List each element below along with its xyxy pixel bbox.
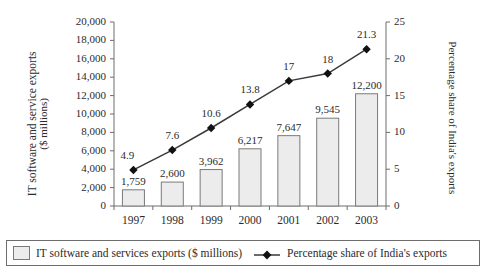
line-marker: [246, 100, 254, 108]
right-axis-tick-label: 10: [394, 125, 422, 137]
left-axis-tick-label: 0: [60, 199, 106, 211]
line-marker: [285, 77, 293, 85]
right-axis-tick-label: 5: [394, 162, 422, 174]
right-axis-tick-label: 15: [394, 89, 422, 101]
legend-label-line: Percentage share of India's exports: [287, 247, 447, 259]
bar: [278, 136, 300, 206]
left-axis-tick-label: 14,000: [60, 70, 106, 82]
line-value-label: 10.6: [194, 107, 228, 119]
bar-value-label: 12,200: [344, 79, 390, 91]
x-axis-tick-label: 1997: [113, 214, 153, 226]
right-axis-tick-label: 25: [394, 15, 422, 27]
left-axis-tick-label: 12,000: [60, 89, 106, 101]
line-value-label: 13.8: [233, 83, 267, 95]
bar: [200, 170, 222, 206]
left-axis-tick-label: 16,000: [60, 52, 106, 64]
left-axis-tick-label: 18,000: [60, 33, 106, 45]
x-axis-tick-label: 1999: [191, 214, 231, 226]
left-axis-tick-label: 10,000: [60, 107, 106, 119]
line-marker: [129, 166, 137, 174]
legend-line-diamond-icon: [254, 247, 280, 259]
line-marker: [324, 69, 332, 77]
x-axis-tick-label: 2001: [269, 214, 309, 226]
left-axis-tick-label: 2,000: [60, 181, 106, 193]
bar: [356, 94, 378, 206]
bar: [122, 190, 144, 206]
line-value-label: 17: [272, 60, 306, 72]
left-axis-tick-label: 4,000: [60, 162, 106, 174]
right-axis-tick-label: 0: [394, 199, 422, 211]
legend-swatch-icon: [13, 246, 30, 260]
line-marker: [168, 146, 176, 154]
x-axis-ticks: [114, 206, 386, 210]
bar: [317, 118, 339, 206]
line-value-label: 4.9: [110, 149, 144, 161]
left-axis-tick-label: 20,000: [60, 15, 106, 27]
x-axis-tick-label: 1998: [152, 214, 192, 226]
chart-legend: IT software and services exports ($ mill…: [6, 240, 480, 266]
line-value-label: 7.6: [155, 129, 189, 141]
bar-value-label: 3,962: [188, 155, 234, 167]
line-value-label: 21.3: [350, 28, 384, 40]
bar-value-label: 9,545: [305, 103, 351, 115]
bar: [161, 182, 183, 206]
x-axis-tick-label: 2002: [308, 214, 348, 226]
left-axis-tick-label: 8,000: [60, 125, 106, 137]
bar-value-label: 7,647: [266, 121, 312, 133]
left-axis-title: IT software and service exports ($ milli…: [26, 29, 50, 219]
right-axis-tick-label: 20: [394, 52, 422, 64]
chart-figure: IT software and service exports ($ milli…: [0, 0, 488, 274]
line-value-label: 18: [311, 53, 345, 65]
bar-value-label: 6,217: [227, 134, 273, 146]
legend-label-bar: IT software and services exports ($ mill…: [36, 247, 242, 259]
bar-value-label: 2,600: [149, 167, 195, 179]
right-axis-ticks: [386, 22, 390, 206]
x-axis-tick-label: 2003: [347, 214, 387, 226]
line-marker: [207, 124, 215, 132]
right-axis-title: Percentage share of India's exports: [446, 18, 458, 218]
left-axis-title-line2: ($ millions): [38, 29, 50, 219]
line-marker: [362, 45, 370, 53]
legend-entry-line: Percentage share of India's exports: [242, 247, 447, 259]
left-axis-tick-label: 6,000: [60, 144, 106, 156]
legend-entry-bar: IT software and services exports ($ mill…: [13, 246, 242, 260]
bar: [239, 149, 261, 206]
x-axis-tick-label: 2000: [230, 214, 270, 226]
